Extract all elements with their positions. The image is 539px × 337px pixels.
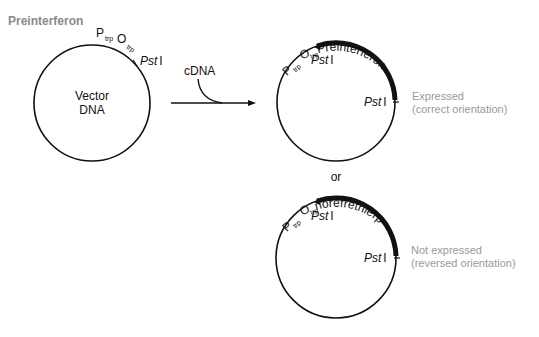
pst-site2-label: PstI: [364, 251, 387, 265]
promoter-subscript: trp: [105, 35, 113, 43]
pst-site1-label: PstI: [311, 209, 334, 223]
promoter-label: P: [279, 63, 294, 79]
cdna-label: cDNA: [184, 64, 215, 78]
outcome-label-line1: Expressed: [412, 90, 464, 102]
pst-site2-label: PstI: [364, 95, 387, 109]
cdna-strand: [198, 79, 222, 103]
vector-dna: Vector DNA P trp O trp PstI: [34, 26, 163, 161]
outcome-label-line2: (correct orientation): [412, 103, 507, 115]
or-separator: or: [331, 170, 342, 184]
cloning-diagram: Preinterferon Vector DNA P trp O trp Pst…: [0, 0, 539, 337]
pst-site1-label: PstI: [311, 53, 334, 67]
vector-label-line1: Vector: [75, 89, 109, 103]
insertion-arrow: cDNA: [171, 64, 256, 106]
plasmid-reversed-orientation: norefretnierp P trp O trp PstI PstI Not …: [276, 196, 516, 318]
operator-subscript: trp: [125, 43, 136, 54]
vector-label-line2: DNA: [79, 103, 104, 117]
pst-site-label: PstI: [140, 54, 163, 68]
arrow-head-icon: [248, 100, 256, 106]
operator-label: O: [117, 32, 126, 46]
plasmid-correct-orientation: Preinterferon P trp O trp PstI PstI Expr…: [277, 40, 507, 161]
figure-title: Preinterferon: [8, 14, 83, 28]
outcome-label-line2: (reversed orientation): [411, 257, 516, 269]
outcome-label-line1: Not expressed: [411, 244, 482, 256]
promoter-label: P: [96, 26, 104, 40]
